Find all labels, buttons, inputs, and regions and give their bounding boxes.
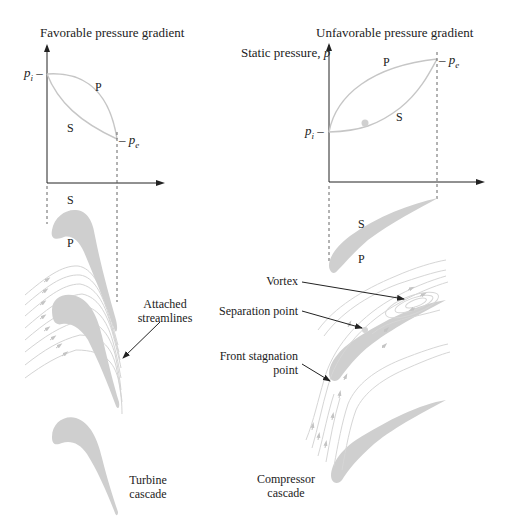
turbine-cascade [25,210,160,515]
right-panel-title: Unfavorable pressure gradient [316,26,473,40]
right-curve-pressure-side [329,59,437,132]
right-blade-p-label: P [358,252,365,266]
turbine-blade-3 [52,417,118,515]
left-panel-title: Favorable pressure gradient [40,26,184,40]
right-blade-s-label: S [358,217,365,231]
left-pi-label: pi – [24,66,43,85]
left-blade-s-label: S [67,193,74,207]
left-curve-p-label: P [95,80,102,94]
right-curve-s-label: S [396,110,403,124]
y-axis-label: Static pressure, p [241,46,330,60]
diagram-graphics [0,0,508,518]
attached-streamlines-label: Attached streamlines [134,297,196,325]
left-curve-pressure-side [47,74,117,139]
left-pressure-plot [44,44,165,302]
separation-point-marker [362,327,368,333]
attached-streamlines [25,266,122,414]
front-stagnation-label: Front stagnation point [198,349,298,377]
left-y-axis-arrow-icon [44,44,50,52]
cascade-diagram: Favorable pressure gradient pi – – pe P … [0,0,508,518]
turbine-cascade-caption: Turbine cascade [126,473,170,501]
left-pe-label: – pe [119,133,139,152]
compressor-blade-1 [329,198,438,273]
right-x-axis-arrow-icon [476,179,485,185]
vortex-pointer [302,282,404,299]
compressor-blade-3 [331,400,446,483]
left-x-axis-arrow-icon [156,180,165,186]
right-curve-p-label: P [383,55,390,69]
right-pi-label: pi – [305,124,324,143]
right-pressure-plot [326,43,485,262]
compressor-cascade [302,198,450,483]
left-blade-p-label: P [67,236,74,250]
compressor-cascade-caption: Compressor cascade [254,472,318,500]
separation-point-label: Separation point [198,304,298,318]
left-curve-suction-side [47,74,117,139]
right-curve-suction-side [329,59,437,132]
right-pe-label: – pe [439,53,459,72]
left-curve-s-label: S [67,121,74,135]
separation-marker-icon [362,120,369,127]
attached-streamlines-pointer [123,322,160,358]
vortex-label: Vortex [240,274,298,288]
